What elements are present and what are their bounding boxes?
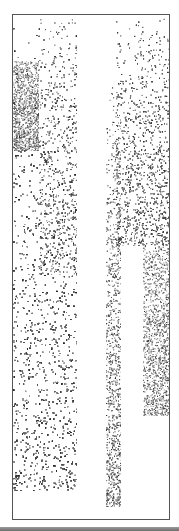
right-lower-block (143, 246, 169, 416)
bottom-edge-bar (0, 527, 179, 531)
artwork-frame (12, 14, 170, 520)
center-left-sparse (39, 15, 77, 275)
right-upper-block (116, 15, 170, 246)
